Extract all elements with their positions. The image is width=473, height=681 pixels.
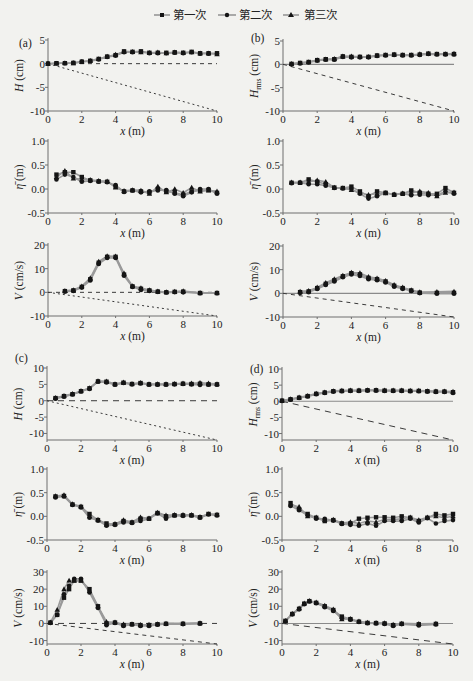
y-tick-label: 20 bbox=[269, 240, 281, 252]
panel-a-wave-height: 50-5-100246810x (m)H (cm)(a) bbox=[13, 34, 223, 138]
triangle-marker-icon bbox=[172, 186, 177, 191]
panel-label: (b) bbox=[251, 32, 265, 45]
y-axis-label: Hrms (cm) bbox=[247, 382, 262, 427]
series-line bbox=[56, 497, 218, 526]
x-tick-label: 2 bbox=[78, 542, 84, 554]
x-axis-label: x (m) bbox=[355, 125, 381, 138]
x-axis-label: x (m) bbox=[355, 331, 381, 344]
x-tick-label: 8 bbox=[416, 646, 422, 658]
figure-canvas: 第一次 第二次 第三次 50-5-100246810x (m)H (cm)(a)… bbox=[0, 0, 473, 681]
panel-label: (c) bbox=[15, 352, 28, 365]
x-axis-label: x (m) bbox=[354, 454, 380, 467]
y-axis-label: η̄ (m) bbox=[12, 492, 25, 517]
y-tick-label: -0.5 bbox=[28, 207, 46, 219]
square-marker-icon bbox=[357, 517, 361, 521]
y-tick-label: 0.5 bbox=[31, 159, 45, 171]
y-axis-label: η̄ (m) bbox=[248, 164, 261, 189]
y-tick-label: 5 bbox=[275, 35, 281, 47]
bottom-slope-line bbox=[283, 293, 454, 317]
x-tick-label: 6 bbox=[382, 442, 388, 454]
square-marker-icon bbox=[160, 13, 164, 17]
y-tick-label: -10 bbox=[264, 635, 279, 647]
circle-marker-icon bbox=[434, 521, 439, 526]
series-markers bbox=[53, 494, 219, 528]
x-tick-label: 2 bbox=[79, 215, 85, 227]
x-tick-label: 10 bbox=[449, 215, 461, 227]
x-tick-label: 6 bbox=[383, 215, 389, 227]
y-tick-label: -10 bbox=[265, 311, 280, 323]
legend-label: 第二次 bbox=[239, 8, 273, 21]
y-axis-unit: (m) bbox=[13, 164, 26, 184]
x-tick-label: 8 bbox=[417, 319, 423, 331]
series-line bbox=[50, 581, 200, 626]
x-axis-label: x (m) bbox=[119, 227, 145, 240]
y-tick-label: 1.0 bbox=[265, 463, 279, 475]
x-axis-unit: (m) bbox=[361, 125, 381, 138]
y-axis-subscript: rms bbox=[253, 407, 262, 418]
x-tick-label: 10 bbox=[212, 215, 224, 227]
panel-c-current-velocity: 3020100-100246810x (m)V (cm/s) bbox=[12, 566, 223, 671]
y-tick-label: -10 bbox=[30, 105, 45, 117]
y-axis-unit: (m) bbox=[12, 492, 25, 512]
panel-d-rms-wave-height: 1050-5-100246810x (m)Hrms (cm)(d) bbox=[247, 363, 459, 467]
x-tick-label: 4 bbox=[349, 113, 355, 125]
x-tick-label: 6 bbox=[147, 215, 153, 227]
x-tick-label: 4 bbox=[112, 646, 118, 658]
y-tick-label: 10 bbox=[33, 362, 45, 374]
x-axis-unit: (m) bbox=[125, 330, 145, 343]
x-tick-label: 10 bbox=[449, 113, 461, 125]
circle-marker-icon bbox=[366, 196, 371, 201]
legend: 第一次 第二次 第三次 bbox=[154, 8, 338, 21]
x-tick-label: 6 bbox=[382, 542, 388, 554]
panel-a-current-velocity: 20100-100246810x (m)V (cm/s) bbox=[13, 239, 223, 343]
y-tick-label: 0 bbox=[275, 58, 281, 70]
bottom-slope-line bbox=[283, 64, 454, 111]
y-tick-label: -10 bbox=[29, 635, 44, 647]
x-tick-label: 2 bbox=[78, 442, 84, 454]
y-tick-label: -0.5 bbox=[27, 534, 45, 546]
bottom-slope-line bbox=[48, 292, 217, 316]
y-tick-label: 0.5 bbox=[265, 487, 279, 499]
x-tick-label: 6 bbox=[146, 542, 152, 554]
x-tick-label: 10 bbox=[212, 113, 224, 125]
legend-item-run-3: 第三次 bbox=[283, 8, 338, 21]
x-axis-unit: (m) bbox=[125, 227, 145, 240]
x-tick-label: 8 bbox=[180, 442, 186, 454]
x-tick-label: 2 bbox=[79, 318, 85, 330]
y-tick-label: 20 bbox=[34, 239, 46, 251]
x-tick-label: 0 bbox=[280, 319, 286, 331]
y-tick-label: -10 bbox=[264, 428, 279, 440]
y-tick-label: -10 bbox=[29, 427, 44, 439]
y-axis-subscript: rms bbox=[254, 78, 263, 89]
y-axis-unit: (cm/s) bbox=[12, 588, 25, 620]
x-axis-label: x (m) bbox=[119, 658, 145, 671]
x-tick-label: 0 bbox=[280, 113, 286, 125]
x-axis-label: x (m) bbox=[354, 658, 380, 671]
circle-marker-icon bbox=[67, 583, 72, 588]
y-tick-label: 10 bbox=[269, 264, 281, 276]
y-tick-label: 20 bbox=[33, 583, 45, 595]
x-tick-label: 10 bbox=[212, 442, 224, 454]
x-tick-label: 8 bbox=[180, 113, 186, 125]
y-tick-label: 0 bbox=[39, 617, 45, 629]
y-tick-label: 5 bbox=[40, 34, 46, 46]
series-markers bbox=[54, 170, 219, 197]
bottom-slope-line bbox=[282, 623, 453, 644]
circle-marker-icon bbox=[374, 524, 379, 529]
y-tick-label: -0.5 bbox=[263, 207, 281, 219]
x-tick-label: 8 bbox=[180, 646, 186, 658]
x-tick-label: 2 bbox=[79, 113, 85, 125]
y-axis-label: V (cm/s) bbox=[247, 588, 260, 627]
y-tick-label: 0.5 bbox=[30, 487, 44, 499]
x-tick-label: 2 bbox=[313, 646, 319, 658]
panel-d-mean-water-level: 1.00.50.0-0.50246810x (m)η̄ (m) bbox=[247, 463, 459, 567]
y-tick-label: 1.0 bbox=[266, 135, 280, 147]
x-tick-label: 0 bbox=[44, 442, 50, 454]
y-axis-unit: (m) bbox=[248, 164, 261, 184]
y-tick-label: 0.0 bbox=[30, 510, 44, 522]
y-axis-unit: (cm) bbox=[12, 387, 25, 412]
y-axis-label: H (cm) bbox=[12, 387, 25, 421]
y-tick-label: 1.0 bbox=[30, 463, 44, 475]
square-marker-icon bbox=[71, 170, 75, 174]
triangle-marker-icon bbox=[155, 184, 160, 189]
